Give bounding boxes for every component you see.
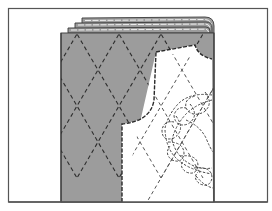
folded-layers (68, 17, 214, 33)
quilting-diagram (0, 0, 272, 211)
illustration (0, 0, 272, 211)
